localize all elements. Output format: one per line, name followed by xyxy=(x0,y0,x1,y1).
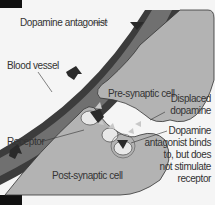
label-displaced-dopamine-line2: dopamine xyxy=(170,105,211,117)
flow-arrow-icon xyxy=(66,66,82,80)
corner-tab-bottom-left xyxy=(0,195,22,205)
label-displaced-dopamine-line1: Displaced xyxy=(171,93,211,105)
corner-tab-top-left xyxy=(0,0,22,8)
dopamine-antagonist-diagram: Dopamine antagonist Blood vessel Pre-syn… xyxy=(0,0,215,205)
label-binds-line2: antagonist binds xyxy=(145,137,211,149)
label-receptor: Receptor xyxy=(7,136,44,148)
label-binds-line3: to, but does xyxy=(164,149,211,161)
label-blood-vessel: Blood vessel xyxy=(7,60,59,72)
label-binds-line4: not stimulate xyxy=(160,161,212,173)
label-binds-line5: receptor xyxy=(178,173,212,185)
label-pre-synaptic-cell: Pre-synaptic cell xyxy=(108,88,175,100)
label-dopamine-antagonist: Dopamine antagonist xyxy=(20,17,107,29)
label-post-synaptic-cell: Post-synaptic cell xyxy=(52,170,123,182)
label-binds-line1: Dopamine xyxy=(169,125,211,137)
